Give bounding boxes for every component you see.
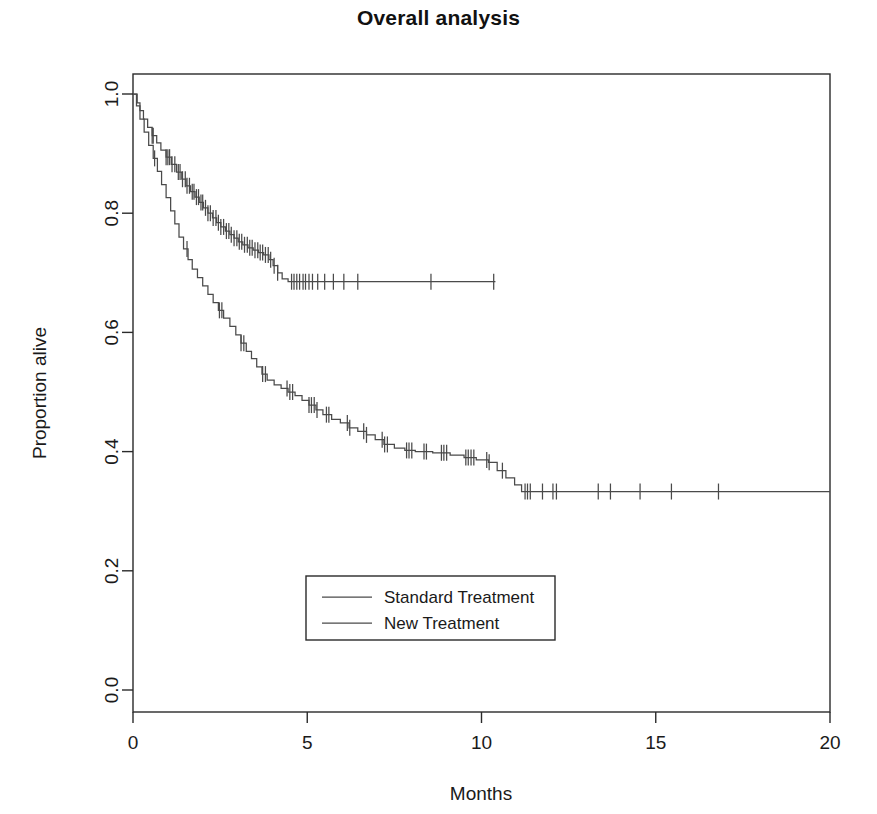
y-tick-label-0.0: 0.0 <box>101 677 122 703</box>
y-tick-label-0.8: 0.8 <box>101 200 122 226</box>
curve-standard-treatment <box>133 94 830 492</box>
y-tick-label-0.6: 0.6 <box>101 319 122 345</box>
legend: Standard Treatment New Treatment <box>306 576 555 640</box>
survival-curves <box>133 94 830 492</box>
legend-label-new-treatment: New Treatment <box>384 614 500 633</box>
x-axis-ticks: 05101520 <box>128 712 841 753</box>
censoring-marks <box>152 128 718 500</box>
x-tick-label-10: 10 <box>471 732 492 753</box>
x-axis-title: Months <box>450 783 512 804</box>
survival-plot: 0.00.20.40.60.81.0 05101520 Proportion a… <box>0 0 877 814</box>
x-tick-label-20: 20 <box>819 732 840 753</box>
x-tick-label-15: 15 <box>645 732 666 753</box>
y-axis-ticks: 0.00.20.40.60.81.0 <box>101 81 133 703</box>
y-tick-label-1.0: 1.0 <box>101 81 122 107</box>
x-tick-label-5: 5 <box>302 732 313 753</box>
kaplan-meier-figure: Overall analysis 0.00.20.40.60.81.0 0510… <box>0 0 877 814</box>
y-tick-label-0.4: 0.4 <box>101 438 122 465</box>
legend-label-standard-treatment: Standard Treatment <box>384 588 535 607</box>
y-axis-title: Proportion alive <box>29 327 50 459</box>
x-tick-label-0: 0 <box>128 732 139 753</box>
y-tick-label-0.2: 0.2 <box>101 558 122 584</box>
